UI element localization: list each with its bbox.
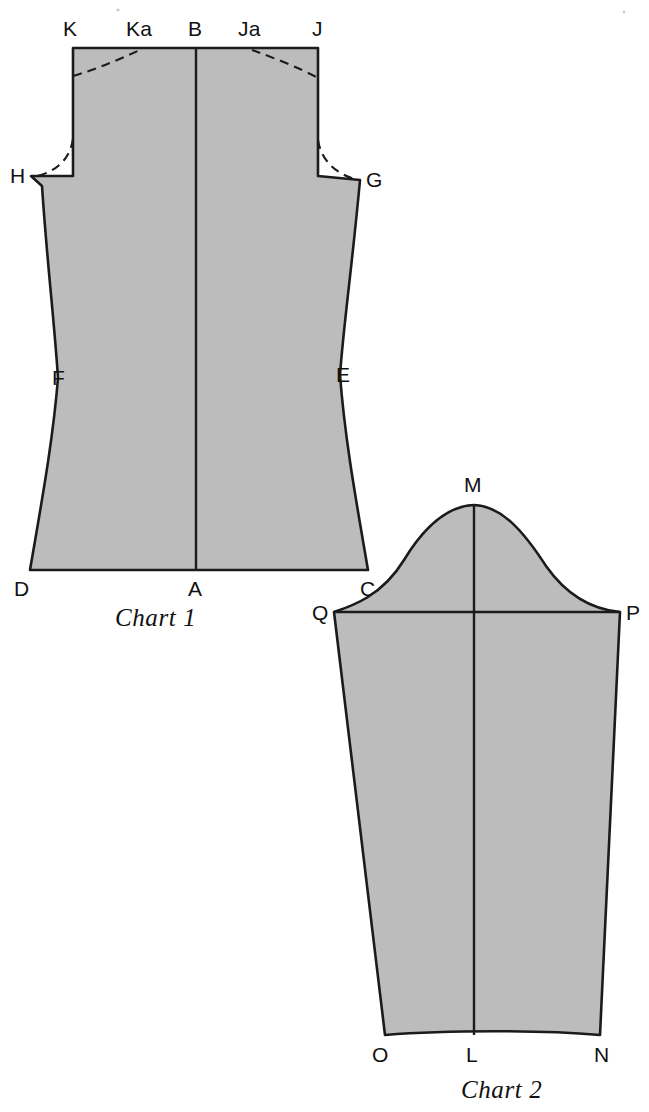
chart-1-label-B: B: [188, 17, 202, 40]
chart-1-label-D: D: [14, 577, 29, 600]
chart-1-label-H: H: [10, 164, 25, 187]
chart-1-label-E: E: [336, 363, 350, 386]
chart-1-label-Ja: Ja: [238, 17, 261, 40]
chart-1-label-J: J: [312, 17, 323, 40]
chart-1-dashed-armhole-left: [33, 139, 73, 177]
pattern-canvas: K Ka B Ja J H G F E D A C Chart 1: [0, 0, 649, 1112]
chart-1-caption: Chart 1: [115, 604, 196, 631]
chart-1-label-Ka: Ka: [126, 17, 152, 40]
chart-1-label-G: G: [366, 168, 383, 191]
chart-2-label-P: P: [626, 601, 640, 624]
chart-1-label-F: F: [52, 366, 65, 389]
chart-1-label-K: K: [63, 17, 77, 40]
chart-1-label-A: A: [188, 577, 202, 600]
chart-2-label-L: L: [466, 1043, 478, 1066]
chart-2-label-M: M: [464, 473, 482, 496]
chart-2-caption: Chart 2: [461, 1076, 542, 1103]
chart-2-label-N: N: [594, 1043, 609, 1066]
chart-2-label-O: O: [372, 1043, 389, 1066]
chart-1-dashed-armhole-right: [318, 140, 359, 180]
chart-1-group: K Ka B Ja J H G F E D A C Chart 1: [10, 17, 383, 631]
chart-2-label-Q: Q: [312, 601, 329, 624]
pattern-sheet: K Ka B Ja J H G F E D A C Chart 1: [0, 0, 649, 1112]
chart-2-body-fill: [334, 505, 620, 1035]
